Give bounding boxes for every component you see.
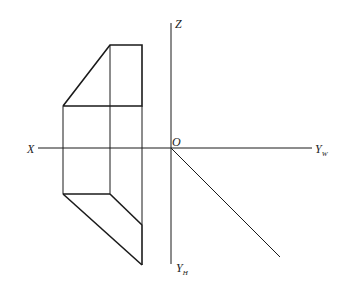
top-view-outer-diagonal	[63, 194, 142, 265]
front-view-outline	[63, 45, 142, 106]
yh-axis-label: YH	[176, 261, 189, 277]
top-view	[63, 194, 142, 265]
projection-diagram: X Z O YW YH	[0, 0, 346, 289]
yh-label-sub: H	[182, 269, 189, 277]
origin-label: O	[172, 135, 181, 149]
yw-label-sub: W	[322, 150, 329, 158]
x-axis-label: X	[26, 142, 35, 156]
yw-axis-label: YW	[315, 142, 329, 158]
top-view-inner-diagonal	[110, 194, 142, 225]
45-degree-line	[171, 148, 280, 257]
z-axis-label: Z	[175, 17, 182, 31]
projection-lines	[63, 106, 142, 225]
front-view	[63, 45, 142, 106]
